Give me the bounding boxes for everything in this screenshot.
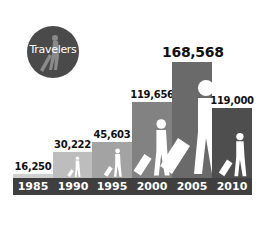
traveler-silhouette-icon [102,148,126,178]
value-label-2005: 168,568 [162,44,222,60]
travelers-badge: Travelers [27,26,79,78]
year-label-2000: 2000 [132,178,172,195]
traveler-silhouette-icon [216,132,253,178]
year-label-1995: 1995 [92,178,132,195]
bar-1995 [92,142,132,178]
badge-label: Travelers [27,43,79,56]
bar-1990 [53,152,92,178]
year-label-1990: 1990 [53,178,93,195]
traveler-silhouette-icon [66,156,84,178]
year-label-2005: 2005 [172,178,212,195]
value-label-2010: 119,000 [202,95,262,106]
year-label-2010: 2010 [212,178,252,195]
year-label-1985: 1985 [13,178,53,195]
bar-2010 [212,108,252,178]
bar-2005 [172,62,212,178]
